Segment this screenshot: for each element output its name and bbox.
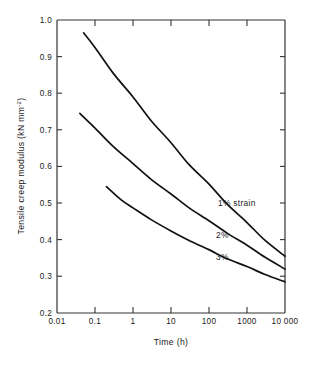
y-tick-label-0.7: 0.7 (40, 126, 52, 135)
x-axis-ticks (95, 307, 247, 313)
x-tick-label-1: 1 (131, 317, 136, 326)
x-tick-label-0.1: 0.1 (89, 317, 101, 326)
y-tick-label-0.9: 0.9 (40, 53, 52, 62)
y-axis-title: Tensile creep modulus (kN mm-2) (16, 97, 26, 234)
y-axis-ticks (57, 57, 62, 277)
x-tick-label-0.01: 0.01 (48, 317, 65, 326)
series-label-2-percent: 2% (216, 230, 229, 240)
y-tick-label-0.5: 0.5 (40, 199, 52, 208)
creep-modulus-chart-figure: 1.0 0.9 0.8 0.7 0.6 0.5 0.4 0.3 0.2 0.01… (0, 0, 318, 366)
series-label-1-percent: 1% strain (218, 198, 256, 208)
y-axis-tick-labels: 1.0 0.9 0.8 0.7 0.6 0.5 0.4 0.3 0.2 (40, 16, 52, 318)
y-axis-title-tail: ) (16, 97, 26, 100)
x-axis-top-ticks (95, 20, 247, 26)
y-axis-right-ticks (280, 57, 285, 277)
series-label-3-percent: 3% (216, 252, 229, 262)
curve-1-percent-strain (84, 33, 285, 256)
y-tick-label-0.8: 0.8 (40, 89, 52, 98)
y-tick-label-0.3: 0.3 (40, 272, 52, 281)
x-axis-tick-labels: 0.01 0.1 1 10 100 1000 10 000 (48, 317, 298, 326)
y-tick-label-0.6: 0.6 (40, 162, 52, 171)
x-axis-title: Time (h) (154, 337, 188, 347)
data-curves (80, 33, 285, 282)
y-axis-title-group: Tensile creep modulus (kN mm-2) (16, 97, 26, 234)
y-tick-label-0.4: 0.4 (40, 236, 52, 245)
x-tick-label-10000: 10 000 (272, 317, 299, 326)
chart-canvas: 1.0 0.9 0.8 0.7 0.6 0.5 0.4 0.3 0.2 0.01… (0, 0, 318, 366)
y-axis-title-main: Tensile creep modulus (kN mm (16, 107, 26, 235)
x-tick-label-100: 100 (202, 317, 217, 326)
series-annotations: 1% strain 2% 3% (216, 198, 256, 262)
x-tick-label-10: 10 (166, 317, 176, 326)
x-tick-label-1000: 1000 (237, 317, 257, 326)
y-tick-label-1.0: 1.0 (40, 16, 52, 25)
